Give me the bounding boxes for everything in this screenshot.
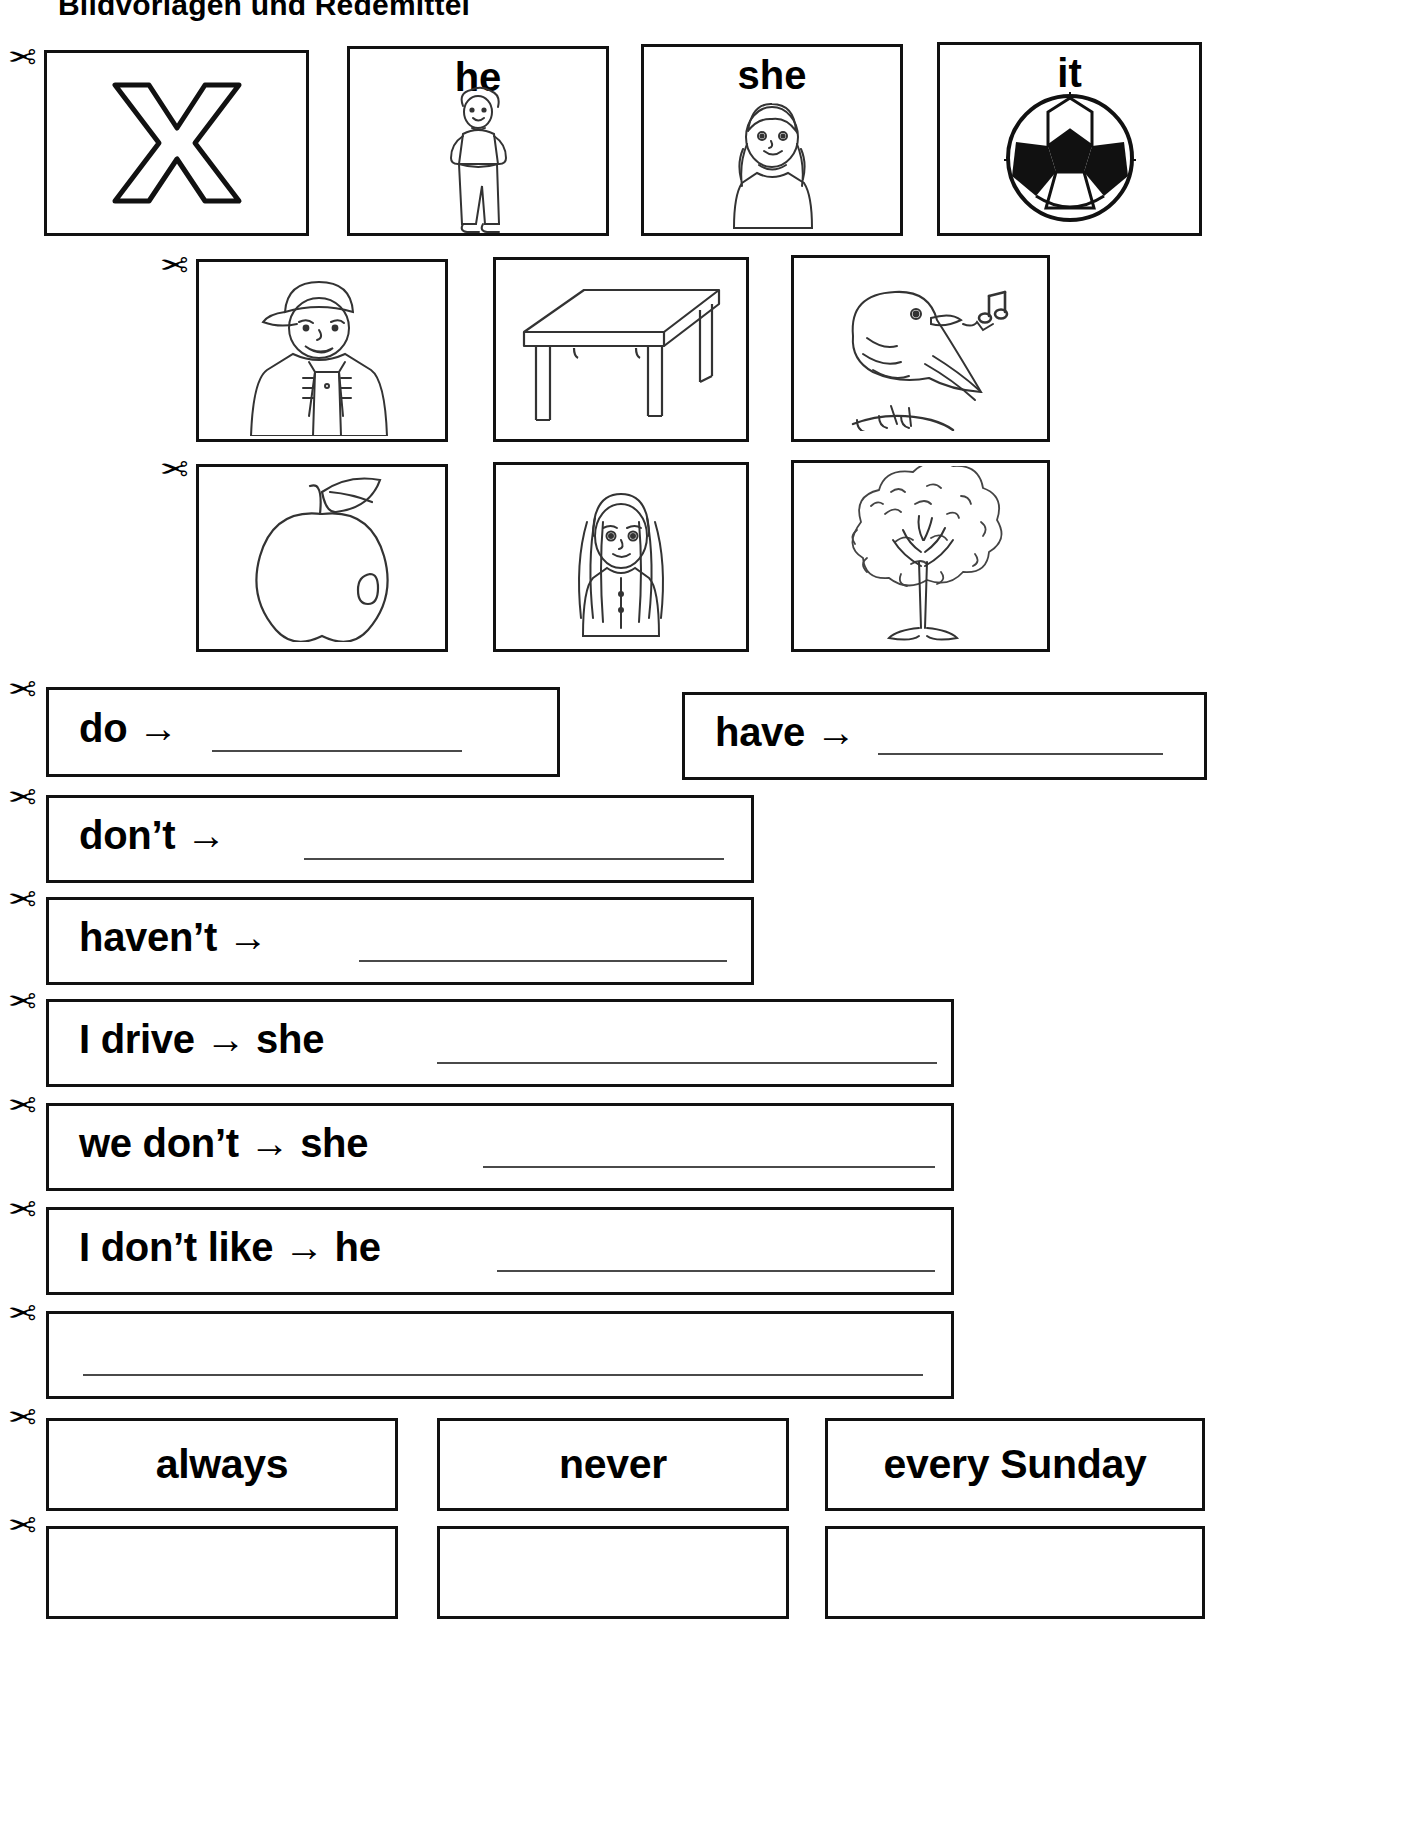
scissors-cut-icon: ✂ [160,452,189,486]
girl-with-braids-illustration [644,89,900,233]
answer-writing-line[interactable] [878,753,1163,755]
word-card-every-sunday[interactable]: every Sunday [825,1418,1205,1511]
answer-writing-line[interactable] [483,1166,935,1168]
word-card-blank-1[interactable] [46,1526,398,1619]
picture-card-bird[interactable] [791,255,1050,442]
sentence-strip-text: we don’t → she [79,1121,368,1166]
answer-writing-line[interactable] [212,750,462,752]
tree-illustration [794,463,1047,649]
apple-illustration [199,467,445,649]
sentence-strip-text: I don’t like → he [79,1225,381,1270]
answer-writing-line[interactable] [497,1270,935,1272]
scissors-cut-icon: ✂ [8,882,37,916]
answer-writing-line[interactable] [83,1374,923,1376]
scissors-cut-icon: ✂ [8,780,37,814]
word-card-label: never [559,1441,667,1488]
sentence-strip-we-dont[interactable]: we don’t → she [46,1103,954,1191]
picture-card-she[interactable]: she [641,44,903,236]
soccer-ball-illustration [940,83,1199,233]
sentence-strip-text: have → [715,710,856,755]
sentence-strip-have[interactable]: have → [682,692,1207,780]
word-card-label: always [156,1441,289,1488]
scissors-cut-icon: ✂ [8,1508,37,1542]
sentence-strip-havent[interactable]: haven’t → [46,897,754,985]
word-card-label: every Sunday [883,1441,1146,1488]
answer-writing-line[interactable] [437,1062,937,1064]
picture-card-woman[interactable] [493,462,749,652]
scissors-cut-icon: ✂ [160,248,189,282]
sentence-strip-blank[interactable] [46,1311,954,1399]
answer-writing-line[interactable] [304,858,724,860]
scissors-cut-icon: ✂ [8,1296,37,1330]
picture-card-table[interactable] [493,257,749,442]
picture-card-x[interactable] [44,50,309,236]
picture-card-he[interactable]: he [347,46,609,236]
woman-long-hair-illustration [496,481,746,649]
sentence-strip-text: I drive → she [79,1017,324,1062]
sentence-strip-text: haven’t → [79,915,267,960]
scissors-cut-icon: ✂ [8,672,37,706]
picture-card-man[interactable] [196,259,448,442]
sentence-strip-text: do → [79,706,178,751]
scissors-cut-icon: ✂ [8,40,37,74]
word-card-blank-2[interactable] [437,1526,789,1619]
scissors-cut-icon: ✂ [8,1192,37,1226]
scissors-cut-icon: ✂ [8,1400,37,1434]
sentence-strip-i-drive[interactable]: I drive → she [46,999,954,1087]
picture-card-it[interactable]: it [937,42,1202,236]
picture-card-tree[interactable] [791,460,1050,652]
sentence-strip-text: don’t → [79,813,226,858]
sentence-strip-do[interactable]: do → [46,687,560,777]
page-title: Bildvorlagen und Redemittel [58,0,470,22]
boy-standing-illustration [350,89,606,233]
singing-bird-illustration [794,258,1047,439]
word-card-always[interactable]: always [46,1418,398,1511]
table-illustration [496,260,746,439]
letter-x-icon [47,53,306,233]
answer-writing-line[interactable] [359,960,727,962]
sentence-strip-dont[interactable]: don’t → [46,795,754,883]
scissors-cut-icon: ✂ [8,984,37,1018]
picture-card-apple[interactable] [196,464,448,652]
sentence-strip-i-dont-like[interactable]: I don’t like → he [46,1207,954,1295]
man-with-cap-illustration [199,262,445,439]
scissors-cut-icon: ✂ [8,1088,37,1122]
word-card-never[interactable]: never [437,1418,789,1511]
word-card-blank-3[interactable] [825,1526,1205,1619]
